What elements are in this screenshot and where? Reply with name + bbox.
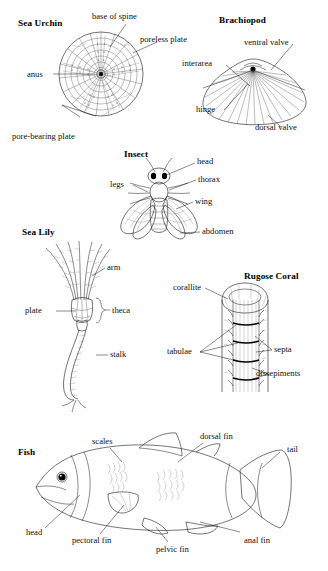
- label-abdomen: abdomen: [202, 227, 234, 236]
- label-interarea: interarea: [182, 59, 212, 68]
- label-scales: scales: [92, 437, 113, 446]
- insect-drawing: [121, 158, 200, 239]
- label-dorsal-fin: dorsal fin: [200, 432, 233, 441]
- label-poreless-plate: poreless plate: [140, 35, 187, 44]
- label-pectoral-fin: pectoral fin: [72, 536, 111, 545]
- label-plate: plate: [25, 306, 42, 315]
- figure-artwork: [0, 0, 328, 571]
- label-head: head: [26, 528, 42, 537]
- label-theca: theca: [112, 306, 130, 315]
- heading-insect: Insect: [124, 150, 148, 159]
- heading-fish: Fish: [18, 448, 35, 457]
- heading-brachiopod: Brachiopod: [219, 16, 266, 25]
- label-tail: tail: [287, 445, 298, 454]
- label-septa: septa: [274, 345, 292, 354]
- label-anus: anus: [27, 70, 43, 79]
- label-anal-fin: anal fin: [244, 536, 270, 545]
- label-corallite: corallite: [173, 283, 201, 292]
- label-legs: legs: [110, 180, 124, 189]
- label-head: head: [197, 157, 213, 166]
- heading-sea-lily: Sea Lily: [22, 228, 55, 237]
- brachiopod-drawing: [203, 44, 306, 127]
- label-arm: arm: [107, 263, 120, 272]
- label-pelvic-fin: pelvic fin: [156, 545, 189, 554]
- label-hinge: hinge: [196, 105, 215, 114]
- label-stalk: stalk: [110, 350, 126, 359]
- label-thorax: thorax: [198, 175, 220, 184]
- heading-sea-urchin: Sea Urchin: [18, 19, 62, 28]
- heading-rugose-coral: Rugose Coral: [244, 272, 299, 281]
- label-pore-bearing-plate: pore-bearing plate: [12, 132, 75, 141]
- fossil-morphology-figure: Sea Urchin Brachiopod Insect Sea Lily Ru…: [0, 0, 328, 571]
- label-dissepiments: dissepiments: [256, 369, 300, 378]
- label-ventral-valve: ventral valve: [244, 38, 289, 47]
- label-tabulae: tabulae: [167, 347, 192, 356]
- fish-drawing: [36, 433, 291, 542]
- sea-lily-drawing: [46, 241, 110, 412]
- label-dorsal-valve: dorsal valve: [255, 123, 297, 132]
- label-wing: wing: [195, 197, 212, 206]
- label-base-of-spine: base of spine: [92, 12, 137, 21]
